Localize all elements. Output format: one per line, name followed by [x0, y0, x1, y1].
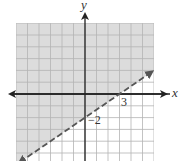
y-axis-label: y	[79, 0, 87, 12]
inequality-graph: y x 3 −2	[0, 0, 180, 161]
x-intercept-label: 3	[121, 95, 127, 109]
y-intercept-label: −2	[88, 113, 101, 127]
x-axis-label: x	[171, 85, 178, 100]
